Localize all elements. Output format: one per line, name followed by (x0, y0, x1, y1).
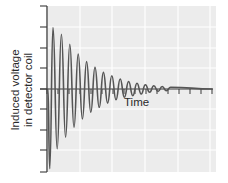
y-axis-label-line-1: Induced voltage (9, 49, 22, 130)
y-axis-label-line-2: in detector coil (22, 49, 35, 130)
y-axis-label: Induced voltage in detector coil (2, 40, 42, 140)
x-axis-label: Time (124, 96, 149, 108)
